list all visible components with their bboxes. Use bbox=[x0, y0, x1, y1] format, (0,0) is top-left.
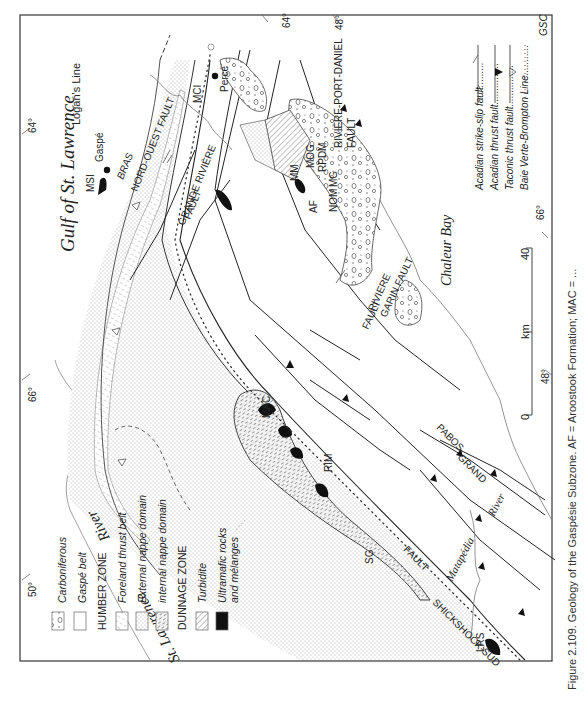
scale-zero: 0 bbox=[519, 414, 531, 420]
swatch-turbidite bbox=[196, 612, 208, 630]
perce-label: Percé bbox=[219, 65, 230, 92]
lon-64-left: 64° bbox=[27, 118, 38, 133]
legend-gaspe-belt: Gaspé belt bbox=[76, 551, 88, 603]
rpdm-label: RPDM bbox=[317, 143, 328, 172]
swatch-gaspe-belt bbox=[74, 612, 86, 630]
mg-label: MG bbox=[328, 171, 339, 187]
swatch-internal-nappe bbox=[156, 612, 168, 630]
mac-label: MAC bbox=[261, 396, 272, 418]
lat-48-right: 48° bbox=[540, 369, 551, 384]
lat-48-top: 48° bbox=[334, 15, 345, 30]
scale-forty: 40 bbox=[519, 248, 531, 260]
lrs-label: LRS bbox=[475, 632, 486, 652]
mog-label: MOG bbox=[305, 144, 316, 168]
legend-foreland-thrust-belt: Foreland thrust belt bbox=[116, 511, 128, 603]
perce-town-dot bbox=[212, 73, 218, 79]
lon-64-top: 64° bbox=[281, 13, 292, 28]
lon-66-right: 66° bbox=[535, 205, 546, 220]
legend-ultramafic: Ultramafic rocks bbox=[216, 527, 228, 603]
geology-map-figure: Gulf of St. Lawrence Chaleur Bay St. Law… bbox=[0, 0, 584, 702]
nom-label: NOM bbox=[328, 189, 339, 212]
mm-label: MM bbox=[289, 164, 300, 181]
lon-66-bottom: 66° bbox=[27, 387, 38, 402]
msi-label: MSI bbox=[85, 174, 96, 192]
scale-unit: km bbox=[519, 324, 531, 339]
swatch-ultramafic bbox=[216, 612, 228, 630]
chaleur-bay-label: Chaleur Bay bbox=[439, 214, 454, 286]
legend-melanges: and mélanges bbox=[228, 536, 240, 603]
rim-label: RIM bbox=[323, 454, 334, 472]
legend-carboniferous: Carboniferous bbox=[56, 536, 68, 603]
legend-dunnage-zone: DUNNAGE ZONE bbox=[176, 545, 188, 630]
riviere-port-daniel-fault-label: FAULT bbox=[346, 118, 357, 148]
sg-label: SG bbox=[364, 549, 375, 564]
riviere-port-daniel-label: RIVIÈRE-PORT-DANIEL bbox=[332, 38, 344, 148]
legend-humber-zone: HUMBER ZONE bbox=[96, 552, 108, 630]
swatch-carboniferous bbox=[52, 612, 64, 630]
gaspe-label: Gaspé bbox=[94, 132, 105, 162]
gaspe-town-dot bbox=[104, 167, 110, 173]
mci-label: MCI bbox=[192, 85, 203, 103]
logans-line-label: Logan's Line bbox=[70, 63, 82, 125]
legend-taconic-thrust: Taconic thrust fault............... bbox=[504, 65, 515, 190]
legend-turbidite: Turbidite bbox=[196, 563, 208, 603]
figure-caption: Figure 2.109. Geology of the Gaspésie Su… bbox=[566, 269, 578, 690]
legend-external-nappe: External nappe domain bbox=[136, 495, 148, 603]
legend-internal-nappe: internal nappe domain bbox=[156, 499, 168, 603]
af-label: AF bbox=[308, 200, 319, 213]
lat-50-bottom: 50° bbox=[27, 582, 38, 597]
legend-acadian-strike-slip: Acadian strike-slip fault......... bbox=[474, 62, 485, 191]
legend-acadian-thrust: Acadian thrust fault............... bbox=[489, 63, 500, 191]
legend-unit-swatches bbox=[52, 612, 228, 630]
legend-baie-verte-brompton: Baie Verte-Brompton Line........... bbox=[519, 45, 530, 190]
swatch-external-nappe bbox=[136, 612, 148, 630]
swatch-foreland-thrust-belt bbox=[116, 612, 128, 630]
gsc-credit: GSC bbox=[538, 14, 549, 36]
